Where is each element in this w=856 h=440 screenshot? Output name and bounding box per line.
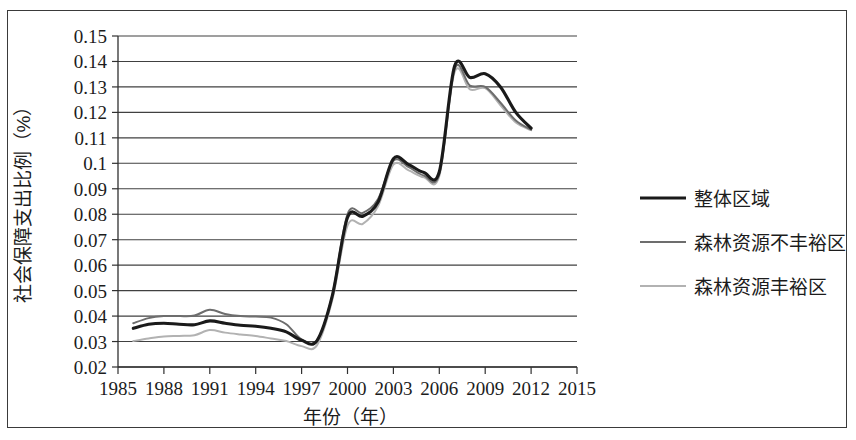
y-tick-label: 0.04 xyxy=(74,306,108,327)
y-tick-label: 0.11 xyxy=(74,128,107,149)
x-tick-label: 1994 xyxy=(237,378,276,399)
y-tick-label: 0.13 xyxy=(74,77,107,98)
x-axis-title: 年份（年） xyxy=(303,407,398,428)
series-line-3 xyxy=(133,68,531,349)
x-tick-label: 1997 xyxy=(283,378,321,399)
x-tick-label: 1985 xyxy=(99,378,137,399)
x-tick-label: 2006 xyxy=(420,378,458,399)
y-tick-label: 0.02 xyxy=(74,357,107,378)
y-tick-label: 0.14 xyxy=(74,51,108,72)
y-tick-label: 0.1 xyxy=(83,153,107,174)
axis-lines xyxy=(118,36,577,367)
legend: 整体区域森林资源不丰裕区森林资源丰裕区 xyxy=(640,189,846,298)
x-tick-label: 2000 xyxy=(329,378,367,399)
legend-label-3: 森林资源丰裕区 xyxy=(694,277,827,298)
x-tick-label: 2009 xyxy=(466,378,504,399)
y-axis-title: 社会保障支出比例（%） xyxy=(13,97,34,304)
y-tick-label: 0.09 xyxy=(74,179,107,200)
figure-root: 0.150.140.130.120.110.10.090.080.070.060… xyxy=(0,0,856,440)
legend-label-1: 整体区域 xyxy=(694,189,770,210)
y-axis-ticks: 0.150.140.130.120.110.10.090.080.070.060… xyxy=(74,26,118,378)
x-tick-label: 1991 xyxy=(191,378,229,399)
series-group xyxy=(133,61,531,349)
x-tick-label: 2012 xyxy=(512,378,550,399)
y-tick-label: 0.08 xyxy=(74,204,107,225)
legend-label-2: 森林资源不丰裕区 xyxy=(694,233,846,254)
x-tick-label: 2003 xyxy=(374,378,412,399)
y-tick-label: 0.07 xyxy=(74,230,107,251)
y-tick-label: 0.06 xyxy=(74,255,107,276)
x-axis-ticks: 1985198819911994199720002003200620092012… xyxy=(99,367,596,399)
series-line-1 xyxy=(133,61,531,344)
y-tick-label: 0.12 xyxy=(74,102,107,123)
y-tick-label: 0.05 xyxy=(74,281,107,302)
y-tick-label: 0.15 xyxy=(74,26,107,47)
x-tick-label: 2015 xyxy=(558,378,596,399)
gridline-group xyxy=(118,36,577,367)
y-tick-label: 0.03 xyxy=(74,332,107,353)
line-chart: 0.150.140.130.120.110.10.090.080.070.060… xyxy=(0,0,856,440)
x-tick-label: 1988 xyxy=(145,378,183,399)
